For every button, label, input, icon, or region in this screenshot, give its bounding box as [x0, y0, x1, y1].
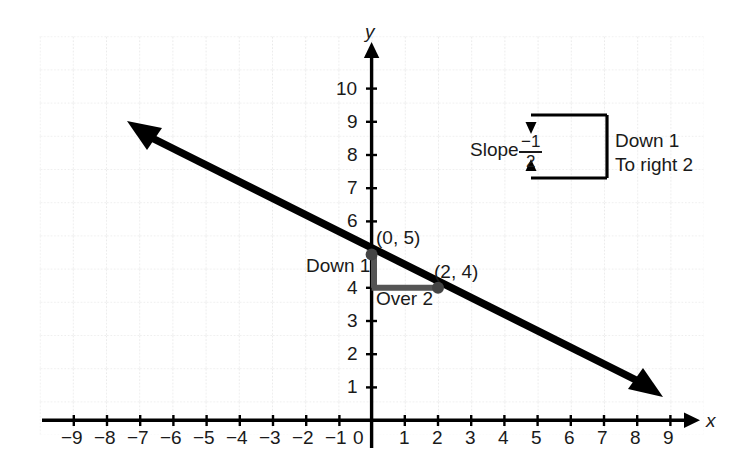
x-tick-label-2: 2 [432, 428, 443, 447]
bracket-label-down-1: Down 1 [615, 131, 679, 150]
x-tick-label-4: 4 [498, 428, 509, 447]
x-tick-label-6: 6 [564, 428, 575, 447]
point-label-2-4: (2, 4) [434, 262, 478, 281]
x-tick-label-neg3: −3 [259, 428, 281, 447]
slope-diagram-figure: 10 9 8 7 6 4 3 2 1 0 −9 −8 −7 −6 −5 −4 −… [0, 0, 740, 464]
slope-fraction: −1 2 [519, 133, 542, 171]
x-axis-label: x [706, 411, 716, 430]
step-over-label: Over 2 [376, 289, 433, 308]
x-tick-label-neg5: −5 [193, 428, 215, 447]
x-tick-label-8: 8 [630, 428, 641, 447]
slope-fraction-denominator: 2 [519, 151, 542, 171]
y-tick-label-6: 6 [347, 211, 358, 230]
x-tick-label-neg7: −7 [127, 428, 149, 447]
x-tick-label-7: 7 [597, 428, 608, 447]
x-tick-label-neg8: −8 [94, 428, 116, 447]
y-axis-label: y [365, 22, 375, 41]
slope-fraction-numerator: −1 [519, 133, 542, 151]
bracket-label-to-right-2: To right 2 [615, 155, 693, 174]
x-tick-label-1: 1 [399, 428, 410, 447]
y-tick-label-7: 7 [347, 178, 358, 197]
x-tick-label-9: 9 [663, 428, 674, 447]
point-label-0-5: (0, 5) [376, 228, 420, 247]
point-2-4 [432, 282, 444, 294]
slope-word-label: Slope [470, 140, 519, 159]
origin-label: 0 [353, 428, 364, 447]
x-tick-label-neg1: −1 [325, 428, 347, 447]
x-tick-label-neg6: −6 [160, 428, 182, 447]
y-tick-label-8: 8 [347, 145, 358, 164]
x-tick-label-5: 5 [531, 428, 542, 447]
x-tick-label-neg9: −9 [61, 428, 83, 447]
y-tick-label-1: 1 [347, 377, 358, 396]
y-tick-label-3: 3 [347, 311, 358, 330]
x-tick-label-neg2: −2 [292, 428, 314, 447]
x-tick-label-neg4: −4 [226, 428, 248, 447]
coordinate-plane-svg [0, 0, 740, 464]
y-tick-label-4: 4 [347, 278, 358, 297]
step-down-label: Down 1 [306, 256, 370, 275]
x-tick-label-3: 3 [465, 428, 476, 447]
y-tick-label-2: 2 [347, 344, 358, 363]
y-tick-label-10: 10 [336, 79, 357, 98]
y-tick-label-9: 9 [347, 112, 358, 131]
